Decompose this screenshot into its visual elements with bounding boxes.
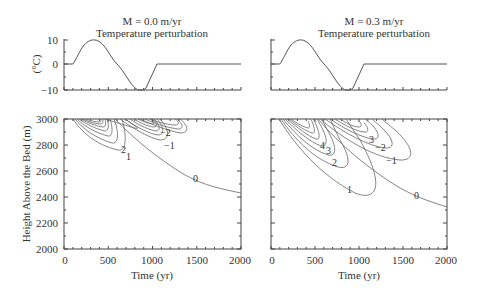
bottom-ytick-2800: 2800	[36, 139, 59, 151]
bottom-ytick-2200: 2200	[36, 217, 59, 229]
right-subtitle: Temperature perturbation	[318, 27, 430, 39]
right-contour-label-0: 0	[414, 190, 419, 201]
left-xtick-500: 500	[100, 254, 117, 266]
right-title: M = 0.3 m/yr	[345, 15, 404, 27]
top-ytick-10: 10	[47, 34, 59, 46]
right-contour-label-neg1: −1	[386, 155, 397, 166]
left-contour-label-neg1: −1	[164, 140, 175, 151]
left-contour-label-neg2: −2	[160, 127, 171, 138]
temperature-curve-right	[271, 40, 447, 90]
right-contour-label-2: 2	[332, 157, 337, 168]
left-xtick-2000: 2000	[229, 254, 252, 266]
top-left-panel	[64, 39, 241, 90]
bottom-left-frame	[64, 119, 241, 249]
top-ytick-neg10: −10	[41, 84, 59, 96]
right-xtick-500: 500	[307, 254, 324, 266]
bottom-left-panel	[64, 119, 241, 249]
top-ylabel: (°C)	[30, 54, 43, 73]
bottom-ytick-3000: 3000	[36, 113, 59, 125]
bottom-ytick-2400: 2400	[36, 191, 59, 203]
figure: M = 0.0 m/yr Temperature perturbation M …	[0, 0, 477, 294]
left-contour-label-0: 0	[193, 173, 198, 184]
right-contour-label-neg2: −2	[375, 142, 386, 153]
right-contours	[279, 119, 447, 207]
bottom-ytick-2600: 2600	[36, 165, 59, 177]
right-xlabel: Time (yr)	[338, 269, 380, 282]
left-contours	[73, 119, 241, 193]
temperature-curve-left	[64, 40, 241, 90]
right-contour-label-4: 4	[320, 140, 325, 151]
bottom-ylabel: Height Above the Bed (m)	[20, 125, 33, 242]
left-xtick-1500: 1500	[186, 254, 209, 266]
right-xtick-2000: 2000	[435, 254, 458, 266]
left-title: M = 0.0 m/yr	[123, 15, 182, 27]
right-xtick-0: 0	[269, 254, 275, 266]
left-subtitle: Temperature perturbation	[96, 27, 208, 39]
right-xtick-1000: 1000	[348, 254, 371, 266]
left-xlabel: Time (yr)	[131, 269, 173, 282]
right-xtick-1500: 1500	[392, 254, 415, 266]
left-xtick-0: 0	[62, 254, 68, 266]
right-contour-label-3b: 3	[369, 134, 374, 145]
right-contour-label-3a: 3	[326, 145, 331, 156]
bottom-right-panel	[271, 119, 447, 249]
left-xtick-1000: 1000	[141, 254, 164, 266]
left-contour-label-1: 1	[126, 151, 131, 162]
bottom-ytick-2000: 2000	[36, 243, 59, 255]
top-right-panel	[271, 39, 447, 90]
top-ytick-0: 0	[53, 58, 59, 70]
right-contour-label-1: 1	[347, 184, 352, 195]
